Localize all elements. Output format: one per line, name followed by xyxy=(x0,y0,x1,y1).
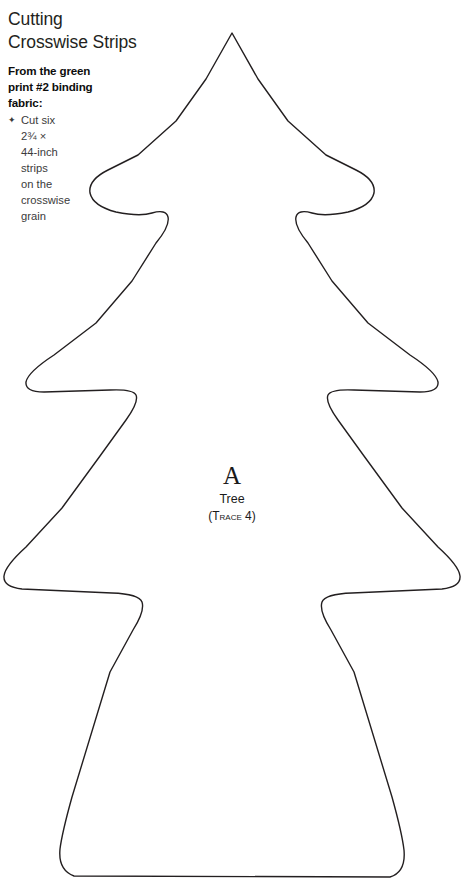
cutting-instructions-block: Cutting Crosswise Strips From the green … xyxy=(8,8,140,225)
fabric-source-line-3: fabric: xyxy=(8,95,140,111)
pattern-piece-label: A Tree (Trace 4) xyxy=(0,462,464,523)
fabric-source-line-1: From the green xyxy=(8,63,140,79)
cut-instruction-line-1: Cut six xyxy=(21,113,140,129)
cut-instruction-line-4: strips xyxy=(21,161,140,177)
cut-instruction-line-6: crosswise xyxy=(21,193,140,209)
list-item: ✦ Cut six 2¾ × 44-inch strips on the cro… xyxy=(8,113,140,224)
cut-instruction-line-3: 44-inch xyxy=(21,145,140,161)
cut-instruction-list: ✦ Cut six 2¾ × 44-inch strips on the cro… xyxy=(8,113,140,224)
section-heading-line-2: Crosswise Strips xyxy=(8,31,140,54)
cut-instruction-line-5: on the xyxy=(21,177,140,193)
pattern-piece-letter: A xyxy=(0,462,464,490)
cut-instruction-line-2: 2¾ × xyxy=(21,129,140,145)
diamond-bullet-icon: ✦ xyxy=(8,113,21,128)
cut-instruction-line-7: grain xyxy=(21,209,140,225)
fabric-source-text: From the green print #2 binding fabric: xyxy=(8,63,140,110)
section-heading-line-1: Cutting xyxy=(8,8,140,31)
pattern-sheet-page: Cutting Crosswise Strips From the green … xyxy=(0,0,464,885)
pattern-piece-trace-count: (Trace 4) xyxy=(0,510,464,523)
pattern-piece-name: Tree xyxy=(0,493,464,507)
fabric-source-line-2: print #2 binding xyxy=(8,79,140,95)
cut-instruction-text: Cut six 2¾ × 44-inch strips on the cross… xyxy=(21,113,140,224)
section-heading: Cutting Crosswise Strips xyxy=(8,8,140,54)
